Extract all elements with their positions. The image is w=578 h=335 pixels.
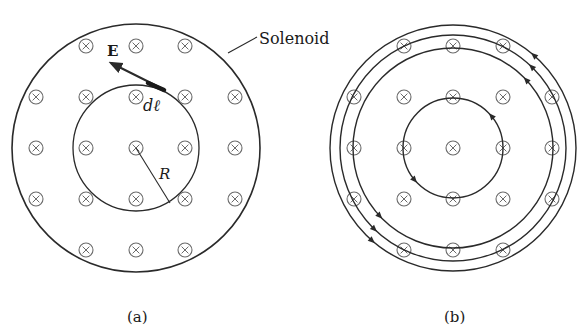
into-page-icon bbox=[178, 243, 192, 257]
into-page-icon bbox=[129, 243, 143, 257]
into-page-icon bbox=[79, 141, 93, 155]
dl-label: dℓ bbox=[143, 96, 160, 115]
field-into-page-symbols bbox=[29, 39, 242, 257]
panel-b: (b) bbox=[330, 25, 576, 326]
field-into-page-symbols bbox=[347, 39, 559, 257]
into-page-icon bbox=[347, 141, 361, 155]
into-page-icon bbox=[446, 141, 460, 155]
into-page-icon bbox=[79, 90, 93, 104]
into-page-icon bbox=[178, 192, 192, 206]
into-page-icon bbox=[79, 39, 93, 53]
into-page-icon bbox=[397, 141, 411, 155]
solenoid-diagram: Solenoid E dℓ R (a) (b) bbox=[0, 0, 578, 335]
into-page-icon bbox=[178, 90, 192, 104]
into-page-icon bbox=[29, 141, 43, 155]
into-page-icon bbox=[228, 141, 242, 155]
into-page-icon bbox=[545, 141, 559, 155]
panel-a-caption: (a) bbox=[127, 308, 148, 326]
into-page-icon bbox=[79, 243, 93, 257]
into-page-icon bbox=[129, 192, 143, 206]
into-page-icon bbox=[446, 192, 460, 206]
into-page-icon bbox=[178, 141, 192, 155]
into-page-icon bbox=[178, 39, 192, 53]
into-page-icon bbox=[397, 192, 411, 206]
into-page-icon bbox=[228, 192, 242, 206]
into-page-icon bbox=[496, 192, 510, 206]
into-page-icon bbox=[129, 39, 143, 53]
into-page-icon bbox=[228, 90, 242, 104]
radius-label: R bbox=[158, 165, 170, 183]
into-page-icon bbox=[446, 39, 460, 53]
dl-element-segment bbox=[148, 83, 164, 90]
into-page-icon bbox=[29, 90, 43, 104]
solenoid-label: Solenoid bbox=[259, 29, 329, 48]
e-field-label: E bbox=[107, 42, 118, 60]
into-page-icon bbox=[446, 243, 460, 257]
into-page-icon bbox=[446, 90, 460, 104]
into-page-icon bbox=[496, 90, 510, 104]
into-page-icon bbox=[129, 90, 143, 104]
panel-b-caption: (b) bbox=[444, 308, 465, 326]
panel-a: Solenoid E dℓ R (a) bbox=[12, 24, 329, 326]
into-page-icon bbox=[79, 192, 93, 206]
into-page-icon bbox=[29, 192, 43, 206]
solenoid-leader-line bbox=[228, 37, 257, 53]
into-page-icon bbox=[397, 90, 411, 104]
